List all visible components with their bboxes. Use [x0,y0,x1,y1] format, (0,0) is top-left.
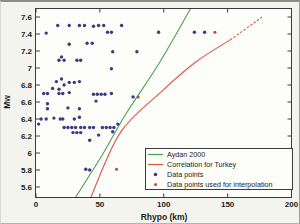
data-point [88,126,91,129]
y-tick-label: 6.4 [21,115,33,124]
data-point [84,168,87,171]
data-point [135,50,138,53]
legend-dot-interpolation-points [154,183,157,186]
data-point [85,42,88,45]
data-point [57,59,60,62]
data-point [96,93,99,96]
data-point [68,91,71,94]
data-point [106,31,109,34]
data-point [74,126,77,129]
data-point [83,24,86,27]
data-point [91,42,94,45]
data-point [111,50,114,53]
legend-label-interpolation-points: Data points used for interpolation [167,180,272,189]
data-point [46,107,49,110]
interpolation-point [213,31,216,34]
data-point [108,126,111,129]
data-point [193,31,196,34]
legend-dot-data-points [154,173,158,177]
data-point [61,117,64,120]
data-point [97,24,100,27]
data-point [78,80,81,83]
data-point [88,139,91,142]
data-point [75,131,78,134]
y-tick-label: 6.2 [21,132,33,141]
data-point [70,126,73,129]
data-point [46,92,49,95]
interpolation-point [137,95,140,98]
data-point [92,126,95,129]
data-point [105,126,108,129]
data-point [68,24,71,27]
data-point [92,93,95,96]
data-point [56,24,59,27]
legend-label-data-points: Data points [167,170,204,179]
data-point [66,126,69,129]
scanned-figure: 0501001502005.65.866.26.46.66.877.27.47.… [0,0,300,224]
data-point [45,117,48,120]
data-point [78,107,81,110]
data-point [110,92,113,95]
data-point [102,24,105,27]
y-axis-label: Mw [2,95,12,109]
data-point [78,116,81,119]
data-point [66,106,69,109]
legend: Aydan 2000 Correlation for Turkey Data p… [146,149,293,190]
data-point [61,92,64,95]
data-point [62,83,65,86]
data-point [52,116,55,119]
data-point [46,102,49,105]
data-point [55,80,58,83]
data-point [62,59,65,62]
data-point [203,31,206,34]
data-point [73,81,76,84]
data-point [37,122,40,125]
y-tick-label: 7.4 [21,30,33,39]
data-point [110,67,113,70]
legend-label-aydan-2000: Aydan 2000 [167,150,205,159]
data-point [51,87,54,90]
data-point [73,117,76,120]
data-point [97,133,100,136]
data-point [57,92,60,95]
data-point [45,31,48,34]
interpolation-point [115,168,118,171]
data-point [42,92,45,95]
y-tick-label: 6 [28,149,33,158]
y-tick-label: 5.6 [21,183,33,192]
data-point [71,131,74,134]
data-point [57,88,60,91]
data-point [112,126,115,129]
data-point [120,24,123,27]
scatter-plot: 0501001502005.65.866.26.46.66.877.27.47.… [1,2,300,224]
data-point [100,93,103,96]
data-point [116,122,119,125]
data-point [88,168,91,171]
data-point [62,126,65,129]
data-point [68,81,71,84]
data-point [101,126,104,129]
y-tick-label: 6.8 [21,81,33,90]
y-tick-label: 5.8 [21,166,33,175]
y-tick-label: 7.6 [21,13,33,22]
data-point [110,31,113,34]
y-tick-label: 7 [28,64,33,73]
data-point [79,126,82,129]
x-tick-label: 100 [157,200,171,209]
legend-label-correlation-turkey: Correlation for Turkey [167,160,237,169]
x-tick-label: 150 [221,200,235,209]
data-point [103,93,106,96]
data-point [92,25,95,28]
data-point [75,59,78,62]
y-tick-label: 7.2 [21,47,33,56]
data-point [94,99,97,102]
x-tick-label: 200 [285,200,299,209]
x-tick-label: 0 [34,200,39,209]
data-point [78,24,81,27]
data-point [111,130,114,133]
data-point [83,126,86,129]
x-tick-label: 50 [95,200,104,209]
data-point [60,55,63,58]
data-point [131,95,134,98]
data-point [79,131,82,134]
